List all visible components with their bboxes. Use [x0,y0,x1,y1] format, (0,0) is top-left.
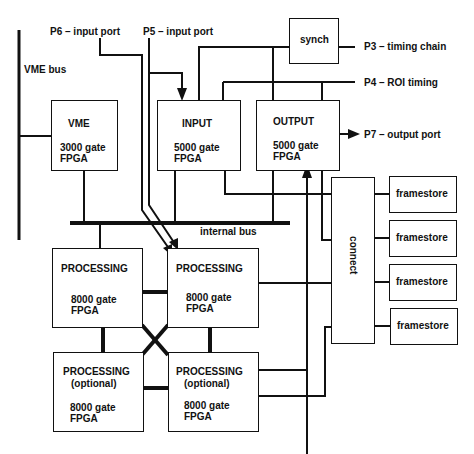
framestore-1: framestore [389,176,457,213]
proc4-title: PROCESSING [176,367,243,378]
proc1-detail1: 8000 gate [71,295,117,306]
processing-block-4: PROCESSING (optional) 8000 gate FPGA [168,352,259,432]
processing-block-3: PROCESSING (optional) 8000 gate FPGA [53,352,144,432]
vme-detail2: FPGA [60,154,88,165]
output-block: OUTPUT 5000 gate FPGA [256,100,340,171]
p7-label: P7 – output port [364,130,441,141]
output-title: OUTPUT [273,117,314,128]
synch-block: synch [289,18,339,64]
proc2-detail1: 8000 gate [186,293,232,304]
framestore-4-title: framestore [397,321,449,332]
proc3-detail1: 8000 gate [70,403,116,414]
vme-block: VME 3000 gate FPGA [51,100,118,171]
proc3-detail2: FPGA [70,414,98,425]
framestore-3: framestore [389,264,457,301]
input-detail1: 5000 gate [174,143,220,154]
proc2-title: PROCESSING [176,264,243,275]
connect-block: connect [331,177,375,344]
proc1-title: PROCESSING [61,264,128,275]
processing-block-2: PROCESSING 8000 gate FPGA [167,248,259,328]
internal-bus-label: internal bus [200,227,257,238]
output-detail1: 5000 gate [273,141,319,152]
p4-label: P4 – ROI timing [364,78,438,89]
vme-title: VME [68,119,90,130]
synch-title: synch [300,35,329,46]
processing-block-1: PROCESSING 8000 gate FPGA [52,248,143,328]
proc3-title: PROCESSING [63,367,130,378]
arrow-p7 [348,129,360,139]
proc4-detail2: FPGA [184,412,212,423]
proc4-detail1: 8000 gate [184,401,230,412]
p5-label: P5 – input port [143,27,213,38]
p6-label: P6 – input port [50,27,120,38]
framestore-1-title: framestore [396,189,448,200]
proc2-detail2: FPGA [186,304,214,315]
vme-bus-label: VME bus [24,65,66,76]
framestore-2: framestore [389,220,457,257]
proc1-detail2: FPGA [71,306,99,317]
proc3-subtitle: (optional) [71,379,117,390]
proc4-subtitle: (optional) [184,379,230,390]
connect-title: connect [348,236,359,274]
framestore-3-title: framestore [396,277,448,288]
vme-detail1: 3000 gate [60,143,106,154]
framestore-2-title: framestore [396,233,448,244]
input-title: INPUT [182,119,212,130]
input-detail2: FPGA [174,154,202,165]
p3-label: P3 – timing chain [364,42,446,53]
output-detail2: FPGA [273,152,301,163]
input-block: INPUT 5000 gate FPGA [157,100,241,171]
framestore-4: framestore [390,308,458,345]
